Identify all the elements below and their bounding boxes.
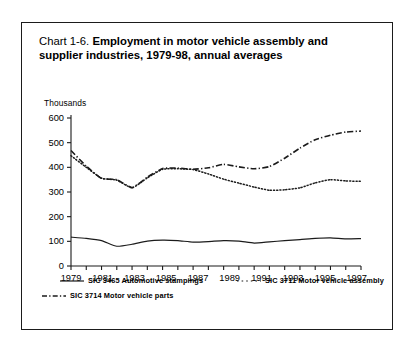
y-tick-label-300: 300 [30,187,64,197]
legend-label-sic-3465: SIC 3465 Automotive stampings [88,276,203,285]
y-tick-label-200: 200 [30,212,64,222]
series-line-sic-3465 [71,237,361,246]
series-line-sic-3711 [71,156,361,191]
legend-row-1: SIC 3465 Automotive stampings SIC 3711 M… [60,276,380,291]
chart-legend: SIC 3465 Automotive stampings SIC 3711 M… [60,276,380,306]
legend-entry-sic-3465: SIC 3465 Automotive stampings [60,276,203,285]
y-tick-marks [67,118,71,266]
y-tick-label-0: 0 [30,261,64,271]
chart-axes [67,115,361,270]
legend-label-sic-3714: SIC 3714 Motor vehicle parts [70,291,173,300]
y-tick-label-100: 100 [30,236,64,246]
legend-swatch-dashdot-icon [42,292,66,300]
y-tick-label-500: 500 [30,138,64,148]
y-tick-label-600: 600 [30,113,64,123]
legend-swatch-solid-icon [60,277,84,285]
x-tick-marks [71,266,361,270]
legend-row-2: SIC 3714 Motor vehicle parts [60,291,380,306]
legend-label-sic-3711: SIC 3711 Motor vehicle assembly [265,276,384,285]
chart-figure-frame: Chart 1-6. Employment in motor vehicle a… [21,22,393,330]
y-tick-label-400: 400 [30,162,64,172]
legend-entry-sic-3711: SIC 3711 Motor vehicle assembly [237,276,384,285]
legend-entry-sic-3714: SIC 3714 Motor vehicle parts [42,291,173,300]
legend-swatch-dotted-icon [237,277,261,285]
chart-series-group [71,131,361,246]
